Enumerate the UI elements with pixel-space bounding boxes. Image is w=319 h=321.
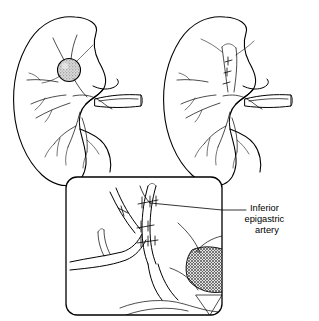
- label-line-3: artery: [255, 225, 279, 235]
- inset-border: [66, 177, 222, 315]
- illustration-root: Inferior epigastric artery: [0, 0, 319, 321]
- aneurysm-highlight: [62, 63, 68, 69]
- label-line-1: Inferior: [250, 203, 279, 213]
- inset-detail-panel: [66, 177, 222, 315]
- label-line-2: epigastric: [244, 214, 284, 224]
- medical-illustration-svg: Inferior epigastric artery: [0, 0, 319, 321]
- renal-artery-aneurysm-left: [58, 59, 81, 82]
